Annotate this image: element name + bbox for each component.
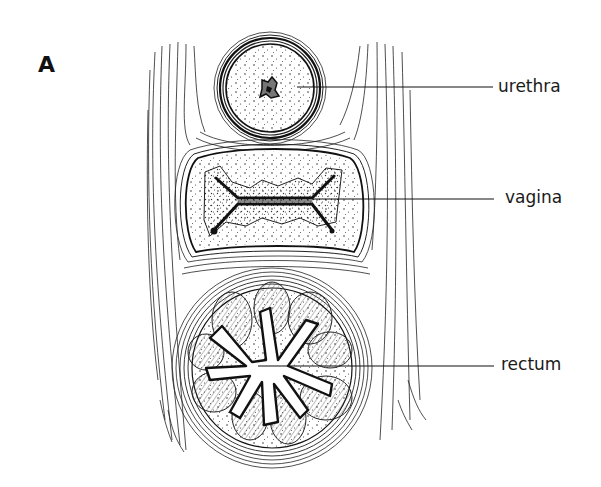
panel-label: A bbox=[38, 52, 55, 77]
rectum-structure bbox=[172, 268, 372, 468]
label-rectum: rectum bbox=[501, 356, 561, 373]
urethra-structure bbox=[214, 32, 326, 144]
label-vagina: vagina bbox=[505, 189, 562, 206]
anatomical-cross-section bbox=[0, 0, 601, 487]
vagina-structure bbox=[175, 140, 375, 263]
label-urethra: urethra bbox=[498, 78, 561, 95]
